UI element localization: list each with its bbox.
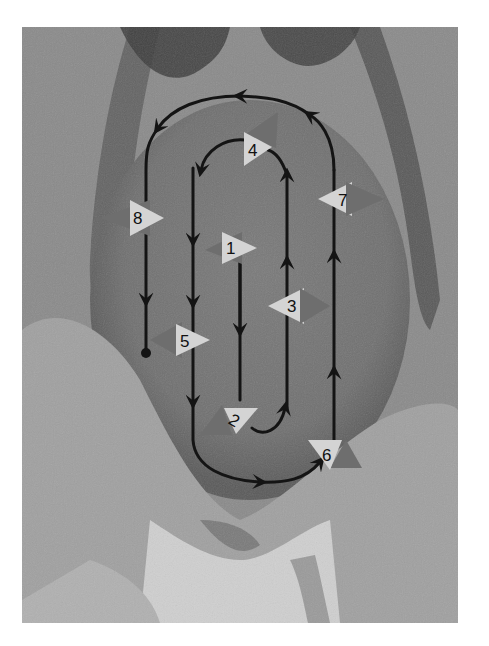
annotated-photo: 1 2 3 4 5 6 7: [22, 27, 458, 623]
svg-text:7: 7: [338, 191, 347, 210]
svg-text:4: 4: [248, 141, 257, 160]
svg-text:6: 6: [322, 446, 331, 465]
svg-text:5: 5: [180, 332, 189, 351]
svg-text:3: 3: [287, 297, 296, 316]
path-start-dot: [141, 348, 151, 358]
svg-text:1: 1: [226, 239, 235, 258]
svg-text:8: 8: [133, 209, 142, 228]
